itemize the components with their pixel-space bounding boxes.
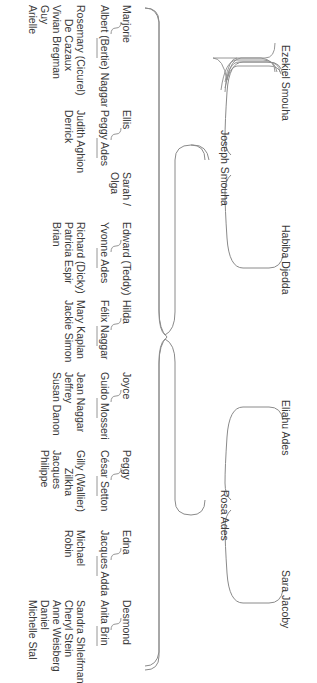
descendant-heading: Richard (Dicky) xyxy=(75,222,87,294)
person-peggy: Peggy xyxy=(121,450,133,480)
person-ellis: Ellis xyxy=(121,110,133,129)
person-habiba-djedda: Habiba Djedda xyxy=(280,225,292,294)
spouse-yvonne-ades: Yvonne Ades xyxy=(99,222,111,283)
ellis-hook xyxy=(111,128,121,140)
person-hilda: Hilda xyxy=(121,300,133,324)
descendant: Anne Weisberg xyxy=(51,600,63,683)
descendants-hilda: Mary Kaplan Jackie Simon xyxy=(63,300,87,362)
edward-hook xyxy=(111,240,121,252)
desmond-hook xyxy=(111,618,121,630)
descendant: Brian xyxy=(51,222,63,294)
descendant-heading: Mary Kaplan xyxy=(75,300,87,362)
peggy-hook xyxy=(111,468,121,480)
descendant: Vivian Bregman xyxy=(51,5,63,95)
descendants-peggy: Gilly (Wallier) Zilkha Jacques Philippe xyxy=(39,450,87,512)
spouse-jacques-adda: Jacques Adda xyxy=(99,530,111,596)
descendant: Guy xyxy=(39,5,51,95)
person-eliahu-ades: Eliahu Ades xyxy=(280,400,292,455)
spouse-cesar-setton: César Setton xyxy=(99,450,111,511)
descendant: Philippe xyxy=(39,450,51,512)
descendant: Patricia Espir xyxy=(63,222,75,294)
person-sarah-olga: Sarah / Olga xyxy=(109,172,133,206)
descendant-heading: Judith Aghion xyxy=(75,110,87,173)
person-joseph-smouha: Joseph Smouha xyxy=(219,130,231,206)
descendant: Arielle xyxy=(27,5,39,95)
descendant-heading: Rosemary (Cicurel) xyxy=(75,5,87,95)
spouse-peggy-ades: Peggy Ades xyxy=(99,110,111,166)
descendant: Jackie Simon xyxy=(63,300,75,362)
descendant: Derrick xyxy=(63,110,75,173)
descendant: Robin xyxy=(63,530,75,566)
descendant-heading: Sandra Shleifman xyxy=(75,600,87,683)
spouse-albert-bertie-naggar: Albert (Bertie) Naggar xyxy=(99,5,111,107)
descendant: Daniel xyxy=(39,600,51,683)
descendants-edna: Michael Robin xyxy=(63,530,87,566)
marjorie-hook xyxy=(111,22,121,34)
descendant: Cheryl Stein xyxy=(63,600,75,683)
descendant: Michelle Stal xyxy=(27,600,39,683)
person-desmond: Desmond xyxy=(121,600,133,645)
descendant: De Cazaux xyxy=(63,5,75,95)
descendant-heading: Jean Naggar xyxy=(75,372,87,436)
person-rosa-ades: Rosa Ades xyxy=(219,490,231,541)
person-edna: Edna xyxy=(121,530,133,555)
edna-hook xyxy=(111,548,121,560)
spouse-guido-mosseri: Guido Mosseri xyxy=(99,372,111,440)
descendants-joyce: Jean Naggar Jeffrey Susan Danon xyxy=(51,372,87,436)
descendants-ellis: Judith Aghion Derrick xyxy=(63,110,87,173)
olga-name: Olga xyxy=(109,172,121,206)
descendant-heading: Michael xyxy=(75,530,87,566)
person-edward-teddy: Edward (Teddy) xyxy=(121,222,133,296)
spouse-anita-brin: Anita Brin xyxy=(99,600,111,646)
descendant: Jeffrey xyxy=(63,372,75,436)
spouse-felix-naggar: Félix Naggar xyxy=(99,300,111,360)
descendant-heading: Gilly (Wallier) xyxy=(75,450,87,512)
joyce-hook xyxy=(111,390,121,402)
person-sara-jacoby: Sara Jacoby xyxy=(280,570,292,628)
descendants-marjorie: Rosemary (Cicurel) De Cazaux Vivian Breg… xyxy=(27,5,87,95)
person-joyce: Joyce xyxy=(121,372,133,399)
descendants-edward: Richard (Dicky) Patricia Espir Brian xyxy=(51,222,87,294)
descendant: Susan Danon xyxy=(51,372,63,436)
descendant: Zilkha xyxy=(63,450,75,512)
descendant: Jacques xyxy=(51,450,63,512)
person-ezekiel-smouha: Ezekiel Smouha xyxy=(280,45,292,121)
person-marjorie: Marjorie xyxy=(121,5,133,43)
descendants-desmond: Sandra Shleifman Cheryl Stein Anne Weisb… xyxy=(27,600,87,683)
hilda-hook xyxy=(111,318,121,330)
sarah-name: Sarah / xyxy=(121,172,133,206)
